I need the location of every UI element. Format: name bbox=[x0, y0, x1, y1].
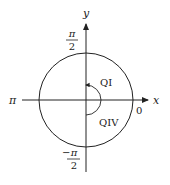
bottom-angle-numerator: π bbox=[70, 147, 78, 158]
top-angle-numerator: π bbox=[68, 28, 76, 39]
bottom-angle-sign: − bbox=[62, 147, 70, 158]
right-angle-label: 0 bbox=[136, 105, 142, 116]
x-axis-label: x bbox=[153, 94, 160, 107]
left-angle-label: π bbox=[8, 94, 17, 107]
top-angle-denominator: 2 bbox=[69, 41, 75, 52]
y-axis-label: y bbox=[82, 7, 90, 20]
unit-circle-diagram: y x π 2 π 0 − π 2 QI QIV bbox=[0, 0, 170, 185]
bottom-angle-denominator: 2 bbox=[71, 160, 77, 171]
quadrant-1-label: QI bbox=[100, 77, 112, 88]
quadrant-4-label: QIV bbox=[99, 117, 119, 128]
